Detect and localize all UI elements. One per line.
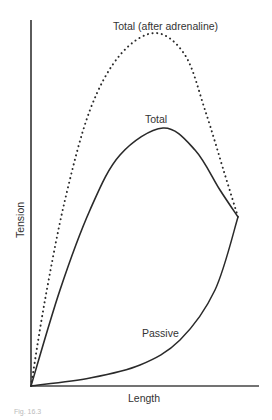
passive-curve — [31, 217, 238, 386]
figure-caption: Fig. 16.3 — [14, 408, 41, 415]
total-curve-label: Total — [145, 113, 167, 125]
adrenaline-curve-label: Total (after adrenaline) — [113, 20, 218, 32]
length-tension-chart — [0, 0, 272, 420]
passive-curve-label: Passive — [142, 327, 179, 339]
total-after-adrenaline-curve — [31, 33, 238, 386]
y-axis-label: Tension — [14, 190, 26, 250]
x-axis-label: Length — [128, 392, 160, 404]
total-curve — [31, 128, 238, 386]
